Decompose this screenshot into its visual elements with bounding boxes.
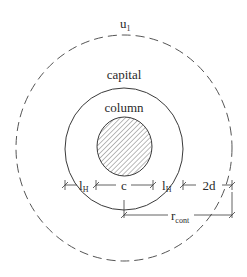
punching-shear-diagram: u1 capital column lH c lH 2d rco — [0, 0, 247, 277]
capital-label: capital — [107, 67, 142, 82]
dim-2d-label: 2d — [203, 178, 217, 193]
dim-c-label: c — [121, 178, 127, 193]
dim-rcont-label: rcont — [171, 208, 190, 225]
dim-l1-right-label: lH — [162, 178, 172, 194]
column-hatched-circle — [97, 117, 152, 176]
dim-l1-left-label: lH — [79, 178, 89, 194]
dimension-line-rcont — [121, 192, 235, 218]
outer-perimeter-label: u1 — [120, 16, 131, 33]
column-label: column — [105, 100, 144, 115]
